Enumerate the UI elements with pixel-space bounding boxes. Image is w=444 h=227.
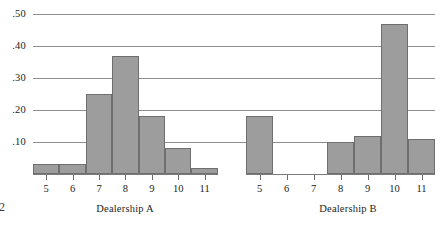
- x-tick-b-7: [314, 175, 315, 180]
- x-tick-b-10: [395, 175, 396, 180]
- x-tick-label-b-5: 5: [248, 183, 272, 194]
- x-tick-label-a-11: 11: [193, 183, 217, 194]
- x-tick-label-b-7: 7: [302, 183, 326, 194]
- x-tick-a-8: [125, 175, 126, 180]
- x-tick-b-5: [260, 175, 261, 180]
- bar-a-7: [86, 94, 112, 174]
- bar-b-8: [327, 142, 354, 174]
- bar-a-6: [59, 164, 85, 174]
- bar-b-11: [408, 139, 435, 174]
- x-tick-label-a-6: 6: [61, 183, 85, 194]
- x-tick-label-a-8: 8: [113, 183, 137, 194]
- x-tick-label-a-5: 5: [34, 183, 58, 194]
- bar-b-9: [354, 136, 381, 174]
- x-tick-label-b-8: 8: [329, 183, 353, 194]
- x-tick-label-b-9: 9: [356, 183, 380, 194]
- panel-b-title: Dealership B: [278, 203, 418, 215]
- x-tick-b-9: [368, 175, 369, 180]
- x-tick-label-b-6: 6: [275, 183, 299, 194]
- bar-a-5: [33, 164, 59, 174]
- bar-b-10: [381, 24, 408, 174]
- histogram-figure: .50 .40 .30 .20 .10 Dealership A Dealers…: [0, 0, 444, 227]
- x-tick-b-6: [287, 175, 288, 180]
- bar-a-8: [112, 56, 138, 174]
- x-tick-a-9: [152, 175, 153, 180]
- x-tick-label-a-7: 7: [87, 183, 111, 194]
- x-tick-a-10: [178, 175, 179, 180]
- bar-a-9: [139, 116, 165, 174]
- bar-b-5: [246, 116, 273, 174]
- x-tick-a-7: [99, 175, 100, 180]
- x-tick-label-a-10: 10: [166, 183, 190, 194]
- x-tick-label-b-10: 10: [383, 183, 407, 194]
- corner-page-mark: 2: [0, 200, 5, 215]
- x-tick-a-6: [73, 175, 74, 180]
- bar-a-10: [165, 148, 191, 174]
- x-tick-a-5: [46, 175, 47, 180]
- x-tick-label-a-9: 9: [140, 183, 164, 194]
- x-tick-b-11: [422, 175, 423, 180]
- x-tick-b-8: [341, 175, 342, 180]
- x-tick-label-b-11: 11: [410, 183, 434, 194]
- x-tick-a-11: [205, 175, 206, 180]
- bar-a-11: [191, 168, 217, 174]
